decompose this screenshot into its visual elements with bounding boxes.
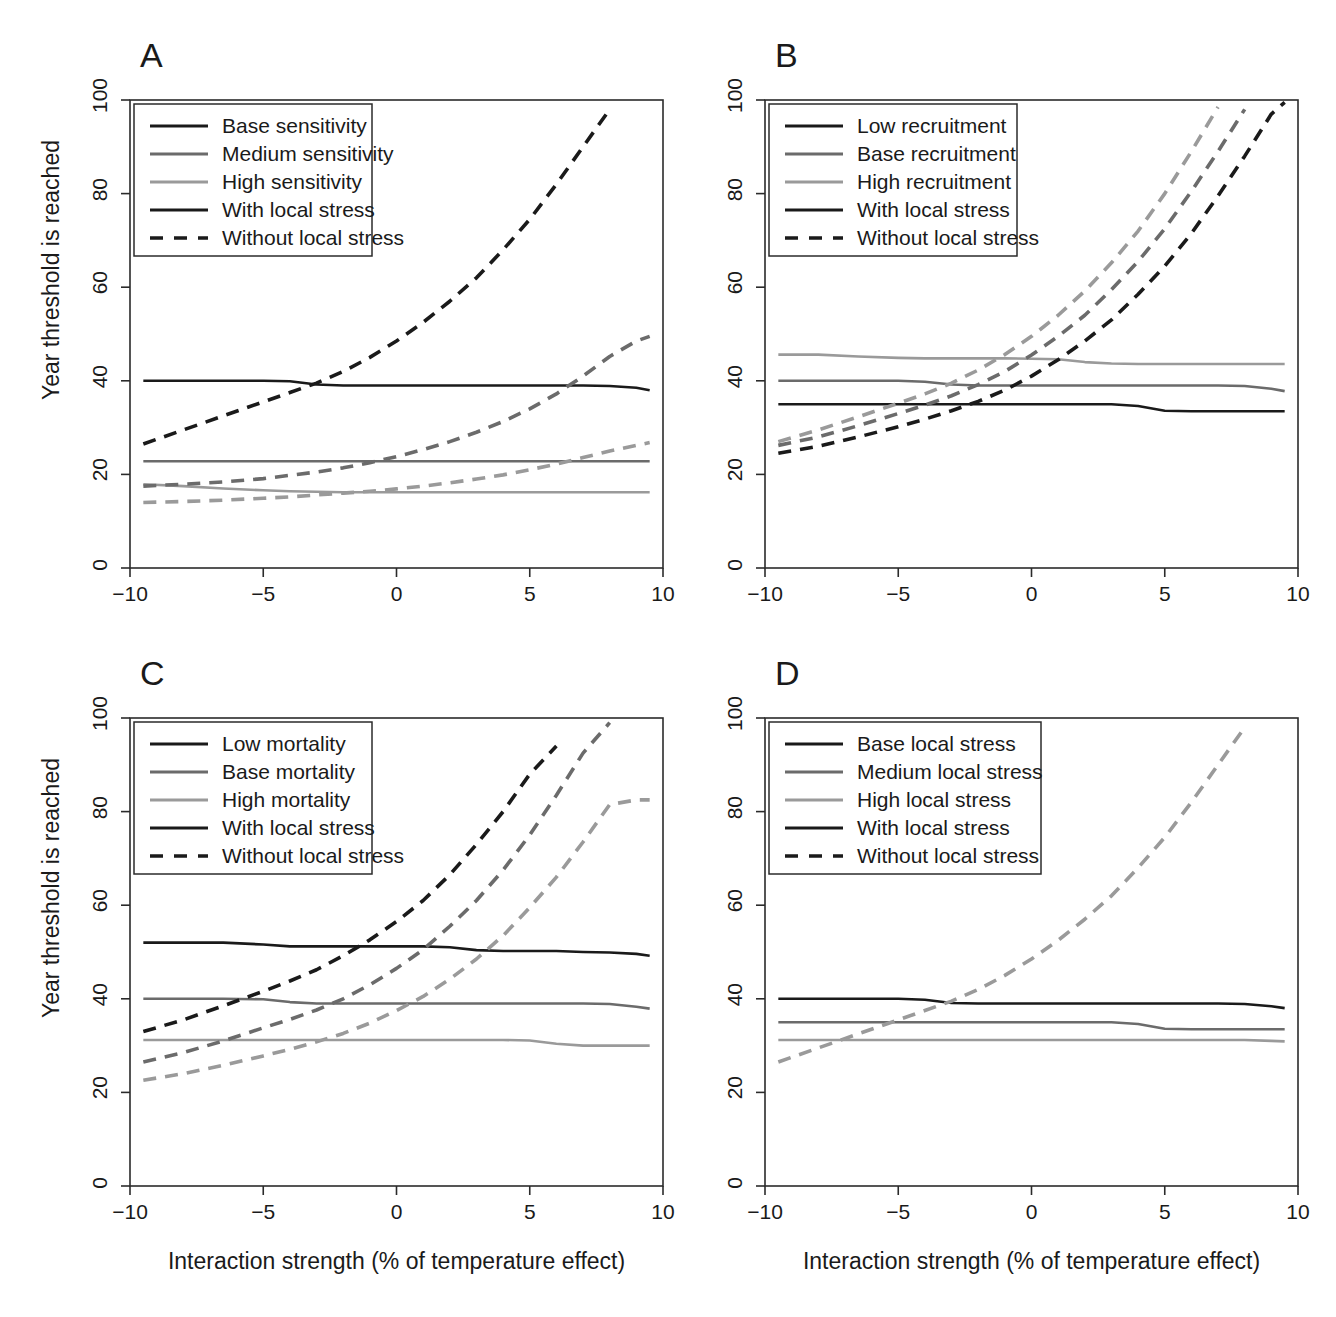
x-tick-label: −5 xyxy=(868,582,928,606)
y-tick-label: 40 xyxy=(88,983,112,1006)
x-tick-label: −10 xyxy=(100,582,160,606)
series-line xyxy=(778,1022,1284,1029)
x-axis-title: Interaction strength (% of temperature e… xyxy=(765,1248,1298,1275)
x-tick-label: 0 xyxy=(367,582,427,606)
y-tick-label: 40 xyxy=(723,983,747,1006)
y-tick-label: 0 xyxy=(88,559,112,571)
legend-label: With local stress xyxy=(857,816,1010,839)
panel-c: Low mortalityBase mortalityHigh mortalit… xyxy=(84,704,677,1230)
legend-label: Base local stress xyxy=(857,732,1016,755)
x-tick-label: 0 xyxy=(1002,582,1062,606)
series-line xyxy=(778,381,1284,391)
x-tick-label: 10 xyxy=(1268,582,1328,606)
legend-label: Base sensitivity xyxy=(222,114,367,137)
x-tick-label: 5 xyxy=(500,582,560,606)
y-tick-label: 80 xyxy=(88,178,112,201)
legend-label: Without local stress xyxy=(222,844,404,867)
series-line xyxy=(778,999,1284,1008)
y-tick-label: 0 xyxy=(88,1177,112,1189)
series-line xyxy=(143,943,649,956)
y-tick-label: 20 xyxy=(723,458,747,481)
legend-label: Medium sensitivity xyxy=(222,142,394,165)
panel-b: Low recruitmentBase recruitmentHigh recr… xyxy=(719,86,1312,612)
panel-letter-d: D xyxy=(775,656,800,690)
legend-label: Low recruitment xyxy=(857,114,1007,137)
x-tick-label: 10 xyxy=(633,582,693,606)
x-tick-label: −10 xyxy=(735,582,795,606)
y-tick-label: 100 xyxy=(88,78,112,113)
legend-label: Medium local stress xyxy=(857,760,1043,783)
y-tick-label: 80 xyxy=(723,796,747,819)
x-tick-label: −5 xyxy=(233,582,293,606)
legend-label: With local stress xyxy=(222,816,375,839)
legend-label: High recruitment xyxy=(857,170,1011,193)
y-tick-label: 60 xyxy=(88,889,112,912)
x-tick-label: 0 xyxy=(1002,1200,1062,1224)
panel-d: Base local stressMedium local stressHigh… xyxy=(719,704,1312,1230)
x-tick-label: 5 xyxy=(1135,582,1195,606)
y-tick-label: 80 xyxy=(88,796,112,819)
y-tick-label: 80 xyxy=(723,178,747,201)
x-tick-label: 5 xyxy=(500,1200,560,1224)
x-tick-label: −5 xyxy=(233,1200,293,1224)
y-tick-label: 20 xyxy=(723,1076,747,1099)
y-tick-label: 20 xyxy=(88,458,112,481)
y-tick-label: 60 xyxy=(723,889,747,912)
y-axis-title: Year threshold is reached xyxy=(38,758,65,1018)
x-tick-label: −10 xyxy=(735,1200,795,1224)
y-tick-label: 0 xyxy=(723,1177,747,1189)
y-tick-label: 100 xyxy=(723,78,747,113)
figure-root: ABase sensitivityMedium sensitivityHigh … xyxy=(0,0,1336,1317)
legend-label: Without local stress xyxy=(857,844,1039,867)
panel-letter-a: A xyxy=(140,38,163,72)
series-line xyxy=(143,999,649,1009)
series-line xyxy=(143,443,649,503)
legend-label: High local stress xyxy=(857,788,1011,811)
x-tick-label: 10 xyxy=(1268,1200,1328,1224)
panel-letter-b: B xyxy=(775,38,798,72)
x-tick-label: −10 xyxy=(100,1200,160,1224)
legend-label: Without local stress xyxy=(222,226,404,249)
legend-label: Low mortality xyxy=(222,732,346,755)
y-tick-label: 40 xyxy=(88,365,112,388)
panel-a: Base sensitivityMedium sensitivityHigh s… xyxy=(84,86,677,612)
y-tick-label: 60 xyxy=(88,271,112,294)
legend-label: With local stress xyxy=(222,198,375,221)
y-tick-label: 100 xyxy=(723,696,747,731)
legend-label: High mortality xyxy=(222,788,351,811)
series-line xyxy=(778,404,1284,411)
y-axis-title: Year threshold is reached xyxy=(38,140,65,400)
legend-label: Base recruitment xyxy=(857,142,1016,165)
legend: Base local stressMedium local stressHigh… xyxy=(769,722,1043,874)
legend-label: High sensitivity xyxy=(222,170,363,193)
y-tick-label: 100 xyxy=(88,696,112,731)
legend-label: Base mortality xyxy=(222,760,356,783)
y-tick-label: 20 xyxy=(88,1076,112,1099)
x-tick-label: −5 xyxy=(868,1200,928,1224)
legend: Base sensitivityMedium sensitivityHigh s… xyxy=(134,104,404,256)
panel-letter-c: C xyxy=(140,656,165,690)
legend: Low mortalityBase mortalityHigh mortalit… xyxy=(134,722,404,874)
y-tick-label: 40 xyxy=(723,365,747,388)
series-line xyxy=(778,1040,1284,1041)
x-tick-label: 5 xyxy=(1135,1200,1195,1224)
x-axis-title: Interaction strength (% of temperature e… xyxy=(130,1248,663,1275)
series-line xyxy=(143,336,649,486)
x-tick-label: 10 xyxy=(633,1200,693,1224)
legend-label: With local stress xyxy=(857,198,1010,221)
x-tick-label: 0 xyxy=(367,1200,427,1224)
legend-label: Without local stress xyxy=(857,226,1039,249)
legend: Low recruitmentBase recruitmentHigh recr… xyxy=(769,104,1039,256)
y-tick-label: 0 xyxy=(723,559,747,571)
y-tick-label: 60 xyxy=(723,271,747,294)
